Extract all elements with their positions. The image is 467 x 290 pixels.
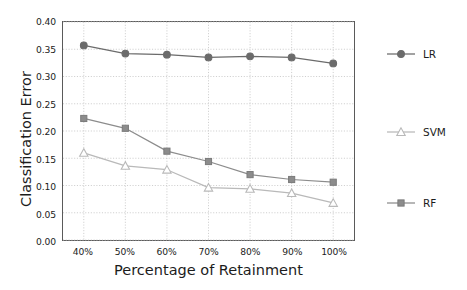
x-axis-tick-label: 80% — [240, 246, 260, 257]
y-axis-tick-label: 0.20 — [36, 126, 56, 137]
plot-area — [62, 21, 355, 241]
legend-swatch-lr — [386, 47, 416, 61]
x-axis-tick-label: 60% — [157, 246, 177, 257]
legend-label: SVM — [423, 126, 446, 138]
x-axis-title: Percentage of Retainment — [62, 262, 355, 278]
x-axis-tick-label: 50% — [115, 246, 135, 257]
y-axis-tick-label: 0.00 — [36, 236, 56, 247]
data-point-marker — [398, 200, 404, 206]
data-point-marker — [122, 50, 129, 57]
y-axis-tick-label: 0.35 — [36, 43, 56, 54]
data-point-marker — [247, 172, 253, 178]
data-point-marker — [80, 42, 87, 49]
data-point-marker — [81, 115, 87, 121]
data-point-marker — [205, 158, 211, 164]
data-point-marker — [330, 60, 337, 67]
data-point-marker — [164, 51, 171, 58]
series-rf — [81, 115, 337, 185]
chart-figure: 0.000.050.100.150.200.250.300.350.40 Cla… — [0, 0, 467, 290]
x-axis-tick-label: 40% — [73, 246, 93, 257]
y-axis-tick-label: 0.05 — [36, 208, 56, 219]
series-lr — [80, 42, 336, 67]
series-line — [84, 118, 333, 182]
y-axis-tick-label: 0.25 — [36, 98, 56, 109]
x-axis-tick-label: 90% — [282, 246, 302, 257]
legend-label: RF — [423, 197, 436, 209]
series-svm — [80, 149, 338, 207]
legend-item-rf[interactable]: RF — [386, 196, 436, 210]
legend-item-lr[interactable]: LR — [386, 47, 436, 61]
legend-swatch-svm — [386, 125, 416, 139]
data-point-marker — [122, 125, 128, 131]
data-point-marker — [289, 176, 295, 182]
data-series-layer — [63, 22, 354, 240]
legend-swatch-rf — [386, 196, 416, 210]
data-point-marker — [247, 53, 254, 60]
x-axis-tick-label: 100% — [321, 246, 347, 257]
chart-legend: LRSVMRF — [386, 21, 462, 241]
data-point-marker — [164, 148, 170, 154]
legend-label: LR — [423, 48, 436, 60]
legend-item-svm[interactable]: SVM — [386, 125, 446, 139]
data-point-marker — [330, 179, 336, 185]
y-axis-tick-label: 0.15 — [36, 153, 56, 164]
y-axis-tick-label: 0.40 — [36, 16, 56, 27]
data-point-marker — [398, 51, 405, 58]
y-axis-tick-label: 0.30 — [36, 71, 56, 82]
y-axis-title: Classification Error — [18, 39, 34, 239]
y-axis-tick-label: 0.10 — [36, 181, 56, 192]
x-axis-tick-labels: 40%50%60%70%80%90%100% — [62, 246, 355, 260]
data-point-marker — [205, 54, 212, 61]
data-point-marker — [288, 54, 295, 61]
x-axis-tick-label: 70% — [198, 246, 218, 257]
data-point-marker — [80, 149, 88, 157]
